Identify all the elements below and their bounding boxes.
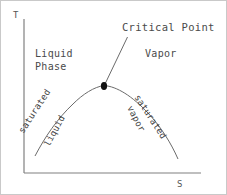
liquid-phase-line-1: Liquid	[35, 47, 73, 60]
ts-phase-diagram: T S Critical Point Vapor Liquid Phase sa…	[0, 0, 227, 195]
critical-point-marker	[101, 82, 107, 90]
critical-point-label: Critical Point	[122, 21, 215, 33]
y-axis-label: T	[13, 9, 19, 21]
liquid-phase-line-2: Phase	[35, 60, 73, 73]
vapor-region-label: Vapor	[145, 48, 177, 60]
x-axis-label: S	[177, 178, 183, 190]
liquid-phase-region-label: Liquid Phase	[35, 47, 73, 73]
critical-point-leader-line	[105, 37, 128, 84]
